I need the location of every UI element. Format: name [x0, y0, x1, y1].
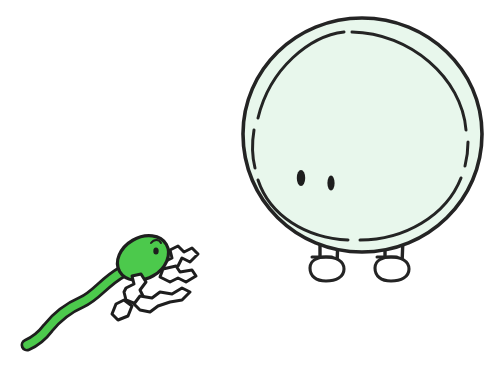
egg-outer-membrane [243, 18, 482, 252]
egg-right-foot [375, 257, 409, 281]
egg-eye-left [297, 170, 305, 186]
egg-eye-right [327, 176, 334, 191]
drawing-surface [0, 0, 503, 368]
illustration-canvas: Cartoon sperm cell running toward an egg… [0, 0, 503, 368]
egg-left-foot [310, 257, 344, 281]
sperm-eye [153, 248, 158, 255]
sperm-rear-foot [112, 300, 132, 320]
